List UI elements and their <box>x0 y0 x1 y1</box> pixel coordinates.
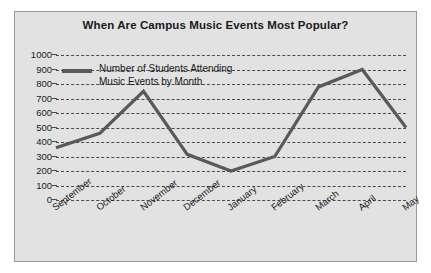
y-axis-tick-label: 800 <box>18 79 52 89</box>
chart-title: When Are Campus Music Events Most Popula… <box>0 19 431 31</box>
y-axis-tick-label: 200 <box>18 166 52 176</box>
y-axis-tick-label: 700 <box>18 94 52 104</box>
legend-label-line-2: Music Events by Month <box>99 76 299 89</box>
y-axis-tick-label: 600 <box>18 108 52 118</box>
chart-figure: When Are Campus Music Events Most Popula… <box>0 0 431 273</box>
y-axis-tick-label: 300 <box>18 152 52 162</box>
x-axis-tick-labels: SeptemberOctoberNovemberDecemberJanuaryF… <box>56 200 406 260</box>
y-axis-tick-label: 900 <box>18 65 52 75</box>
legend-label-line-1: Number of Students Attending <box>99 63 299 76</box>
y-axis-tick-label: 100 <box>18 181 52 191</box>
legend-line-swatch <box>62 69 92 73</box>
y-axis-tick-label: 500 <box>18 123 52 133</box>
y-axis-tick-label: 400 <box>18 137 52 147</box>
y-axis-tick-labels: 10009008007006005004003002001000 <box>14 55 52 200</box>
y-axis-tick-label: 0 <box>18 195 52 205</box>
legend-label: Number of Students Attending Music Event… <box>99 63 299 88</box>
y-axis-tick-label: 1000 <box>18 50 52 60</box>
